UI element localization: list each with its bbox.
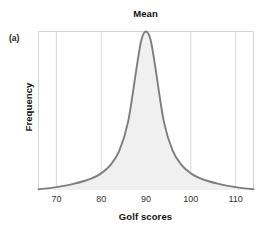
- x-tick-label-70: 70: [36, 193, 76, 205]
- x-tick-label-90: 90: [126, 193, 166, 205]
- x-tick-label-80: 80: [81, 193, 121, 205]
- distribution-fill: [39, 32, 254, 191]
- x-tick-label-100: 100: [171, 193, 211, 205]
- chart-figure: (a) Mean Frequency Golf scores 708090100…: [0, 0, 269, 232]
- x-tick-label-110: 110: [216, 193, 256, 205]
